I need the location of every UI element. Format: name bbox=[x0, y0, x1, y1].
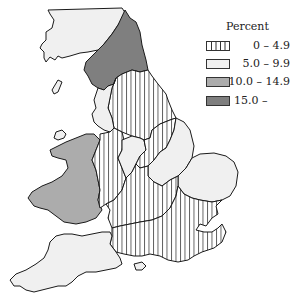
legend-item-15-plus: 15.0 – bbox=[206, 96, 295, 107]
legend-label: 10.0 – 14.9 bbox=[206, 75, 290, 88]
legend-swatch-dark bbox=[206, 96, 230, 106]
region-isle-of-wight bbox=[134, 262, 146, 270]
legend-label: 15.0 – bbox=[234, 94, 295, 107]
region-wales bbox=[28, 134, 102, 224]
legend-label: 0 – 4.9 bbox=[206, 39, 290, 52]
legend-label: 5.0 – 9.9 bbox=[206, 57, 290, 70]
legend-item-5-9.9: 5.0 – 9.9 bbox=[206, 59, 295, 70]
region-anglesey bbox=[54, 130, 66, 140]
region-south-west bbox=[10, 232, 122, 292]
legend-item-10-14.9: 10.0 – 14.9 bbox=[206, 77, 295, 88]
legend-item-0-4.9: 0 – 4.9 bbox=[206, 41, 295, 52]
legend-title: Percent bbox=[226, 20, 269, 33]
region-isle-of-man bbox=[52, 80, 62, 94]
